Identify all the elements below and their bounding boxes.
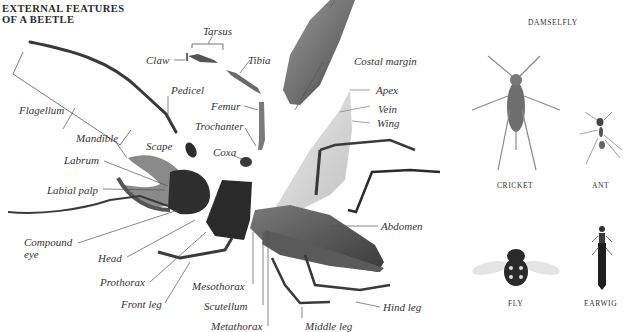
caption-ant: ANT bbox=[592, 181, 609, 190]
middle-leg-part bbox=[272, 258, 330, 303]
tibia-part bbox=[226, 70, 261, 94]
prothorax-part bbox=[206, 180, 252, 240]
detached-leg-2 bbox=[348, 170, 440, 212]
label-femur: Femur bbox=[211, 100, 240, 112]
label-labrum: Labrum bbox=[64, 154, 99, 166]
caption-cricket: CRICKET bbox=[497, 181, 533, 190]
hind-wing-part bbox=[270, 90, 352, 215]
label-prothorax: Prothorax bbox=[100, 276, 145, 288]
tarsus-part bbox=[174, 35, 223, 63]
label-abdomen: Abdomen bbox=[381, 220, 423, 232]
femur-part bbox=[258, 102, 265, 150]
head-part bbox=[8, 155, 210, 214]
label-scutellum: Scutellum bbox=[204, 300, 247, 312]
scape-part bbox=[183, 141, 199, 160]
label-flagellum: Flagellum bbox=[19, 104, 64, 116]
label-mandible: Mandible bbox=[76, 132, 118, 144]
label-scape: Scape bbox=[146, 140, 172, 152]
caption-fly: FLY bbox=[508, 299, 523, 308]
coxa-part bbox=[240, 157, 252, 167]
label-tarsus: Tarsus bbox=[203, 25, 232, 37]
earwig-illustration bbox=[592, 226, 612, 290]
label-coxa: Coxa bbox=[213, 146, 236, 158]
label-compound-eye-line2: eye bbox=[24, 248, 39, 260]
label-vein: Vein bbox=[378, 103, 397, 115]
label-metathorax: Metathorax bbox=[211, 320, 262, 332]
label-labial-palp: Labial palp bbox=[47, 184, 98, 196]
label-front-leg: Front leg bbox=[121, 298, 162, 310]
label-mesothorax: Mesothorax bbox=[192, 280, 245, 292]
label-claw: Claw bbox=[146, 54, 169, 66]
caption-damselfly: DAMSELFLY bbox=[528, 18, 578, 27]
label-costal-margin: Costal margin bbox=[354, 55, 417, 67]
cricket-illustration bbox=[472, 56, 560, 170]
label-head: Head bbox=[98, 252, 122, 264]
label-hind-leg: Hind leg bbox=[383, 301, 421, 313]
label-pedicel: Pedicel bbox=[171, 84, 204, 96]
elytron-part bbox=[283, 0, 355, 105]
ant-illustration bbox=[580, 112, 622, 164]
front-leg-part bbox=[158, 238, 232, 258]
label-apex: Apex bbox=[376, 84, 398, 96]
label-wing: Wing bbox=[377, 117, 400, 129]
label-middle-leg: Middle leg bbox=[305, 320, 352, 332]
label-trochanter: Trochanter bbox=[195, 120, 244, 132]
fly-illustration bbox=[471, 249, 561, 286]
label-tibia: Tibia bbox=[248, 54, 271, 66]
label-compound-eye-line1: Compound bbox=[24, 236, 72, 248]
caption-earwig: EARWIG bbox=[584, 299, 617, 308]
